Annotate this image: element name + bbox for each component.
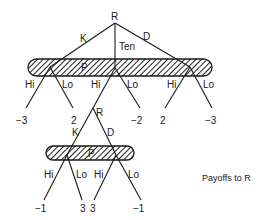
payoff: −3 xyxy=(16,115,28,126)
action-label-ten: Ten xyxy=(119,41,135,52)
upper-info-set xyxy=(28,59,212,76)
lower-payoff: −1 xyxy=(133,203,145,214)
payoff: 2 xyxy=(71,115,77,126)
lower-action-label-d: D xyxy=(107,127,114,138)
lower-payoff: 3 xyxy=(90,203,96,214)
lower-info-set-player-label: P xyxy=(88,148,95,159)
caption: Payoffs to R xyxy=(202,173,251,183)
payoff: −2 xyxy=(131,115,143,126)
lower-action-label-k: K xyxy=(72,127,79,138)
lower-branch-label: Hi xyxy=(94,169,103,180)
action-label-d: D xyxy=(143,31,150,42)
branch-label: Hi xyxy=(91,79,100,90)
branch-label: Lo xyxy=(62,79,74,90)
branch-label: Lo xyxy=(203,79,215,90)
payoff: −3 xyxy=(205,115,217,126)
lower-payoff: 3 xyxy=(80,203,86,214)
action-label-k: K xyxy=(80,33,87,44)
payoff: 2 xyxy=(160,115,166,126)
branch-label: Hi xyxy=(167,79,176,90)
lower-payoff: −1 xyxy=(35,203,47,214)
lower-root-player-label: R xyxy=(96,107,103,118)
lower-branch-label: Hi xyxy=(44,169,53,180)
lower-branch-label: Lo xyxy=(128,169,140,180)
lower-branch-label: Lo xyxy=(76,169,88,180)
root-player-label: R xyxy=(111,11,118,22)
game-tree-diagram: R K Ten D P Hi Lo Hi Lo Hi Lo −3 2 −2 2 … xyxy=(0,0,264,220)
info-set-player-label: P xyxy=(81,62,88,73)
branch-label: Lo xyxy=(127,79,139,90)
branch-label: Hi xyxy=(25,79,34,90)
